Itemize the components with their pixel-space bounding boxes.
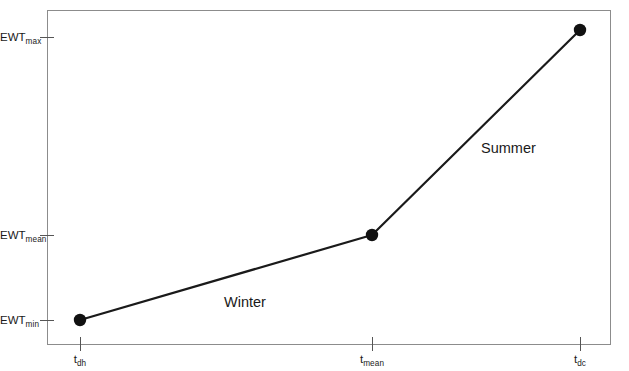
x-axis-label-t-dc: tdc [550, 353, 610, 367]
y-axis-label-ewt-max: EWTmax [0, 31, 38, 45]
y-axis-label-ewt-mean-subscript: mean [26, 235, 47, 244]
y-axis-label-ewt-max-subscript: max [26, 37, 42, 46]
data-point-marker [574, 24, 586, 36]
annotation-summer: Summer [481, 140, 536, 156]
y-axis-label-ewt-min-subscript: min [26, 320, 40, 329]
x-axis-label-t-mean: tmean [340, 353, 404, 367]
x-axis-label-t-mean-subscript: mean [363, 359, 384, 368]
y-axis-label-ewt-mean-base: EWT [0, 229, 26, 241]
line-chart-plot [0, 0, 629, 371]
chart-screenshot: · · · · · · · · EWT [0, 0, 629, 371]
y-axis-label-ewt-max-base: EWT [0, 31, 26, 43]
x-axis-label-t-dh-subscript: dh [77, 359, 86, 368]
y-axis-label-ewt-min-base: EWT [0, 314, 26, 326]
data-line [80, 30, 580, 320]
y-axis-label-ewt-min: EWTmin [0, 314, 38, 328]
plot-frame [48, 11, 611, 345]
y-axis-label-ewt-mean: EWTmean [0, 229, 38, 243]
data-point-marker [366, 229, 378, 241]
x-axis-label-t-dh: tdh [50, 353, 110, 367]
x-axis-label-t-dc-subscript: dc [577, 359, 586, 368]
annotation-winter: Winter [224, 294, 266, 310]
data-point-marker [74, 314, 86, 326]
